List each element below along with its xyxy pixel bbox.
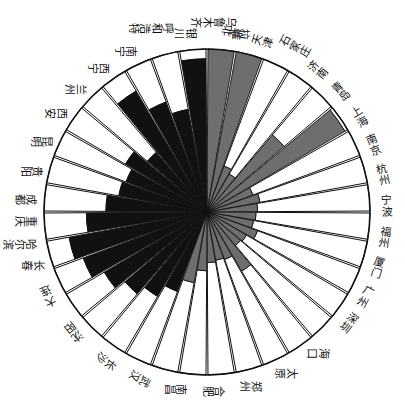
city-label-text: 郑州 (238, 381, 263, 392)
city-label: 拉萨 (226, 29, 252, 40)
city-label: 西安 (44, 108, 69, 119)
city-label-text: 拉萨 (226, 29, 252, 40)
city-label-text: 长春 (21, 260, 46, 271)
city-label-text: 合肥 (201, 386, 227, 397)
city-label: 合肥 (201, 386, 227, 397)
city-label: 太原 (274, 368, 299, 379)
city-label: 兰州 (63, 84, 88, 95)
city-label-text: 昆明 (29, 136, 54, 147)
city-label: 哈尔滨 (2, 239, 38, 250)
city-label: 银川 (173, 28, 199, 39)
city-label-text: 重庆 (13, 216, 39, 227)
city-label-text: 银川 (173, 28, 199, 39)
city-label: 南宁 (113, 46, 138, 57)
city-label: 昆明 (29, 136, 54, 147)
radial-chart-canvas: 北京天津石家庄济南青岛上海南京杭州宁波福州厦门广州深圳海口太原郑州合肥南昌武汉长… (0, 0, 405, 419)
city-label-text: 西宁 (86, 63, 111, 74)
city-label-text: 南昌 (163, 384, 188, 395)
city-label-text: 太原 (274, 368, 299, 379)
city-label: 成都 (13, 194, 38, 205)
city-label-text: 南宁 (113, 46, 138, 57)
city-label: 郑州 (238, 381, 263, 392)
city-label-text: 海口 (306, 348, 332, 359)
rose-chart-svg: 北京天津石家庄济南青岛上海南京杭州宁波福州厦门广州深圳海口太原郑州合肥南昌武汉长… (0, 0, 405, 419)
city-label-text: 贵阳 (19, 166, 44, 177)
city-label-text: 宁波 (381, 192, 393, 218)
city-label: 海口 (306, 348, 332, 359)
city-label: 宁波 (381, 192, 393, 218)
city-label-text: 兰州 (63, 84, 88, 95)
city-label: 南昌 (163, 384, 188, 395)
city-label: 西宁 (86, 63, 111, 74)
city-label: 乌鲁木齐 (190, 17, 239, 28)
city-label-text: 乌鲁木齐 (190, 17, 239, 28)
city-label-text: 成都 (13, 194, 38, 205)
city-label: 重庆 (13, 216, 39, 227)
city-label-text: 哈尔滨 (2, 239, 38, 250)
city-label: 贵阳 (19, 166, 44, 177)
city-label: 呼和浩特 (127, 23, 175, 34)
city-label-text: 西安 (44, 108, 69, 119)
city-label-text: 呼和浩特 (127, 23, 175, 34)
city-label: 长春 (21, 260, 46, 271)
